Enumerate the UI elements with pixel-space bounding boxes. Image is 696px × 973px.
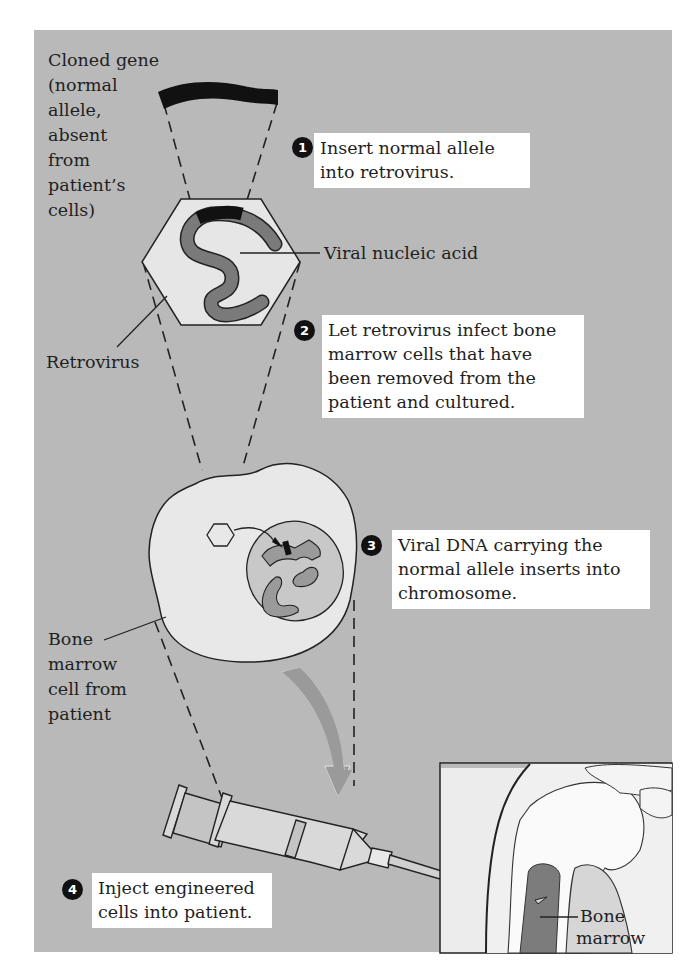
step-line: normal allele inserts into	[398, 557, 642, 581]
step-3-badge: 3	[361, 535, 382, 556]
label-line: Bone	[48, 627, 127, 652]
step-line: Let retrovirus infect bone	[328, 318, 576, 342]
label-line: absent	[48, 123, 159, 148]
step-3-text: Viral DNA carrying the normal allele ins…	[392, 530, 650, 609]
step-4-badge: 4	[62, 879, 83, 900]
step-line: chromosome.	[398, 581, 642, 605]
cloned-gene-icon	[158, 82, 278, 109]
label-line: patient	[48, 702, 127, 727]
step-line: into retrovirus.	[320, 160, 522, 184]
label-line: Bone	[580, 905, 645, 927]
label-line: from	[48, 148, 159, 173]
step-1-badge: 1	[292, 137, 313, 158]
label-line: Cloned gene	[48, 48, 159, 73]
step-2-text: Let retrovirus infect bone marrow cells …	[322, 315, 584, 418]
step-line: cells into patient.	[98, 900, 264, 924]
step-line: Inject engineered	[98, 876, 264, 900]
label-line: cells)	[48, 198, 159, 223]
step-1-text: Insert normal allele into retrovirus.	[314, 133, 530, 188]
step-2-badge: 2	[294, 320, 315, 341]
label-line: marrow	[576, 927, 645, 949]
step-line: been removed from the	[328, 366, 576, 390]
viral-nucleic-acid-label: Viral nucleic acid	[324, 241, 478, 266]
step-line: Viral DNA carrying the	[398, 533, 642, 557]
cloned-gene-label: Cloned gene (normal allele, absent from …	[48, 48, 159, 223]
label-line: cell from	[48, 677, 127, 702]
label-line: patient’s	[48, 173, 159, 198]
label-line: marrow	[48, 652, 127, 677]
step-line: marrow cells that have	[328, 342, 576, 366]
label-line: allele,	[48, 98, 159, 123]
step-4-text: Inject engineered cells into patient.	[92, 873, 272, 928]
bone-marrow-label: Bone marrow	[580, 905, 645, 949]
step-line: patient and cultured.	[328, 390, 576, 414]
label-line: (normal	[48, 73, 159, 98]
step-line: Insert normal allele	[320, 136, 522, 160]
retrovirus-label: Retrovirus	[46, 350, 140, 375]
bone-marrow-cell-label: Bone marrow cell from patient	[48, 627, 127, 727]
